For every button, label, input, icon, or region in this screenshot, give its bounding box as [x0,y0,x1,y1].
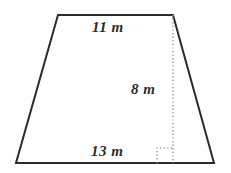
trapezoid-outline [16,15,214,163]
label-bottom-base: 13 m [91,144,123,159]
trapezoid-figure: 11 m 8 m 13 m [0,0,231,173]
right-angle-marker-icon [157,148,173,163]
label-height: 8 m [131,82,155,97]
label-top-base: 11 m [92,20,124,35]
